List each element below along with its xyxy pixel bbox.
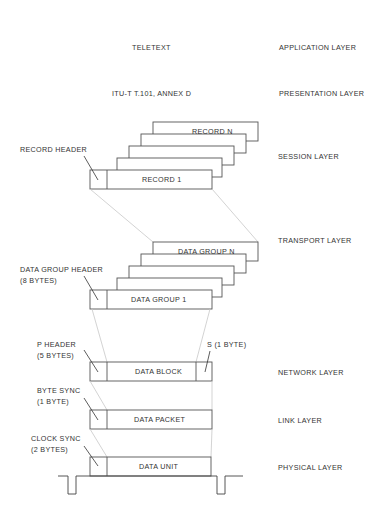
record-n-label: RECORD N: [192, 127, 233, 136]
layer-label-application: APPLICATION LAYER: [279, 43, 356, 52]
expansion-guide-left: [90, 429, 107, 457]
data-group-header-size: (8 BYTES): [20, 276, 57, 285]
expansion-guide-left: [92, 309, 107, 362]
signal-waveform: [58, 476, 243, 494]
teletext-label: TELETEXT: [132, 43, 171, 52]
data-group-n-label: DATA GROUP N: [178, 247, 235, 256]
record-1-label: RECORD 1: [142, 175, 182, 184]
expansion-guide-right: [196, 309, 210, 362]
expansion-guide-left: [90, 381, 107, 410]
clock-sync-size: (2 BYTES): [31, 445, 68, 454]
p-header-size: (5 BYTES): [37, 351, 74, 360]
data-group-header-label: DATA GROUP HEADER: [20, 265, 103, 274]
data-group-1-label: DATA GROUP 1: [131, 295, 187, 304]
data-unit-label: DATA UNIT: [139, 462, 178, 471]
layer-label-network: NETWORK LAYER: [278, 368, 344, 377]
layer-label-transport: TRANSPORT LAYER: [278, 236, 352, 245]
record-header-label: RECORD HEADER: [20, 145, 87, 154]
layer-label-physical: PHYSICAL LAYER: [278, 463, 343, 472]
layer-label-link: LINK LAYER: [278, 416, 322, 425]
record-stack: RECORD N RECORD 1: [90, 122, 258, 189]
byte-sync-label: BYTE SYNC: [37, 386, 80, 395]
layer-label-session: SESSION LAYER: [278, 152, 339, 161]
expansion-guide-right: [211, 429, 212, 457]
data-block-label: DATA BLOCK: [135, 367, 182, 376]
teletext-protocol-stack-diagram: APPLICATION LAYER PRESENTATION LAYER SES…: [0, 0, 369, 517]
p-header-label: P HEADER: [37, 340, 76, 349]
expansion-guide-left: [90, 189, 153, 242]
clock-sync-label: CLOCK SYNC: [31, 434, 81, 443]
layer-label-presentation: PRESENTATION LAYER: [279, 89, 364, 98]
s-trailer-label: S (1 BYTE): [207, 340, 246, 349]
presentation-spec-label: ITU-T T.101, ANNEX D: [112, 89, 191, 98]
data-packet-label: DATA PACKET: [134, 415, 186, 424]
expansion-guide-right: [212, 189, 258, 242]
data-group-stack: DATA GROUP N DATA GROUP 1: [90, 242, 258, 309]
byte-sync-size: (1 BYTE): [37, 397, 69, 406]
